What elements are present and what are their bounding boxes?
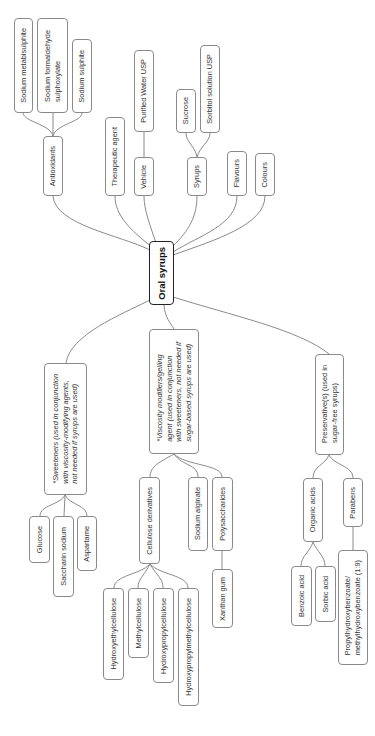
node-label: Aspartame bbox=[82, 526, 92, 562]
node-label: Sorbic acid bbox=[321, 576, 331, 613]
node-label: Sucrose bbox=[181, 97, 191, 124]
node-sorbitol-solution-usp: Sorbitol solution USP bbox=[200, 45, 220, 133]
node-label: Sodium formaldehyde sulphoxylate bbox=[43, 30, 62, 102]
node-label: Hydroxypropylmethylcellulose bbox=[184, 598, 194, 696]
node-label: Preservative(s) (used in sugar-free syru… bbox=[320, 365, 339, 443]
node-hydroxypropylmethylcellulose: Hydroxypropylmethylcellulose bbox=[178, 588, 199, 706]
node-polysaccharides: Polysaccharides bbox=[212, 477, 233, 551]
root-node-oral-syrups: Oral syrups bbox=[149, 241, 174, 305]
node-label: Purified Water USP bbox=[139, 59, 149, 123]
node-glucose: Glucose bbox=[29, 516, 50, 563]
node-sorbic-acid: Sorbic acid bbox=[315, 566, 336, 622]
node-sweeteners: *Sweeteners (used in conjunction with vi… bbox=[44, 363, 87, 495]
node-label: Cellulose derivatives bbox=[145, 487, 155, 555]
node-label: Syrups bbox=[192, 165, 202, 188]
node-label: Hydroxyethylcellulose bbox=[109, 598, 119, 669]
node-label: Methylcellulose bbox=[134, 598, 144, 649]
node-label: Antioxidants bbox=[48, 146, 58, 186]
node-label: *Viscosity modifiers/gelling agent (used… bbox=[155, 342, 193, 442]
node-label: Benzoic acid bbox=[297, 575, 307, 617]
node-label: Xanthan gum bbox=[218, 577, 228, 621]
node-sodium-metabisulphite: Sodium metabisulphite bbox=[14, 18, 33, 113]
node-label: Sodium alginate bbox=[193, 487, 203, 540]
node-purified-water-usp: Purified Water USP bbox=[134, 50, 154, 132]
node-antioxidants: Antioxidants bbox=[43, 136, 63, 196]
node-propylhydroxybenzoate-methylhydroxybenzoate: Propylhydroxybenzoate/ methylhydroxybenz… bbox=[338, 550, 368, 665]
node-xanthan-gum: Xanthan gum bbox=[212, 569, 233, 628]
node-syrups: Syrups bbox=[187, 157, 207, 196]
node-hydroxypropylcellulose: Hydroxypropylcellulose bbox=[153, 588, 174, 683]
node-aspartame: Aspartame bbox=[77, 516, 97, 571]
node-sodium-alginate: Sodium alginate bbox=[188, 477, 208, 551]
node-label: Flavours bbox=[232, 159, 242, 187]
node-benzoic-acid: Benzoic acid bbox=[291, 566, 312, 626]
node-colours: Colours bbox=[255, 153, 275, 196]
node-viscosity-modifiers: *Viscosity modifiers/gelling agent (used… bbox=[149, 329, 199, 454]
node-label: Vehicle bbox=[139, 165, 149, 189]
node-vehicle: Vehicle bbox=[134, 157, 154, 196]
node-label: Glucose bbox=[35, 526, 45, 553]
node-label: Organic acids bbox=[308, 487, 318, 532]
node-label: Sodium sulphite bbox=[77, 50, 87, 103]
node-label: *Sweeteners (used in conjunction with vi… bbox=[51, 374, 80, 484]
node-sucrose: Sucrose bbox=[176, 89, 196, 133]
node-cellulose-derivatives: Cellulose derivatives bbox=[139, 477, 160, 564]
node-label: Oral syrups bbox=[157, 247, 167, 300]
node-label: Therapeutic agent bbox=[110, 127, 120, 187]
node-label: Saccharin sodium bbox=[59, 527, 69, 586]
node-label: Propylhydroxybenzoate/ methylhydroxybenz… bbox=[343, 560, 362, 655]
node-label: Sodium metabisulphite bbox=[19, 28, 29, 103]
node-sodium-sulphite: Sodium sulphite bbox=[72, 39, 92, 113]
node-organic-acids: Organic acids bbox=[303, 478, 323, 542]
node-hydroxyethylcellulose: Hydroxyethylcellulose bbox=[103, 588, 124, 680]
node-sodium-formaldehyde-sulphoxylate: Sodium formaldehyde sulphoxylate bbox=[37, 18, 68, 113]
node-label: Polysaccharides bbox=[218, 487, 228, 541]
node-label: Sorbitol solution USP bbox=[205, 54, 215, 124]
node-methylcellulose: Methylcellulose bbox=[128, 588, 149, 658]
node-preservatives: Preservative(s) (used in sugar-free syru… bbox=[315, 354, 344, 455]
node-parabens: Parabens bbox=[343, 478, 363, 527]
node-therapeutic-agent: Therapeutic agent bbox=[105, 117, 125, 196]
node-flavours: Flavours bbox=[227, 151, 247, 196]
node-label: Colours bbox=[260, 162, 270, 187]
node-saccharin-sodium: Saccharin sodium bbox=[53, 516, 74, 597]
node-label: Parabens bbox=[348, 487, 358, 519]
node-label: Hydroxypropylcellulose bbox=[159, 598, 169, 674]
mind-map-canvas: Oral syrups Antioxidants Sodium metabisu… bbox=[0, 0, 375, 736]
